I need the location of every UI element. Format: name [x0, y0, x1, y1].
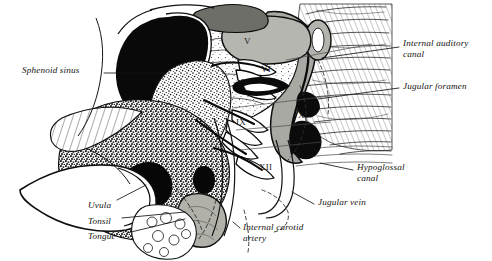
oropharynx-airway-small — [193, 166, 215, 194]
label-tongue: Tongue — [88, 231, 116, 242]
label-jugular-vein: Jugular vein — [318, 197, 366, 208]
label-internal-carotid-artery: Internal carotid artery — [243, 222, 304, 243]
marker-nerve-v: V — [244, 36, 251, 46]
tongue-muscle — [132, 205, 197, 259]
label-sphenoid-sinus: Sphenoid sinus — [22, 65, 79, 76]
marker-nerve-xii: XII — [259, 162, 272, 172]
label-tonsil: Tonsil — [88, 216, 111, 227]
label-uvula: Uvula — [88, 200, 111, 211]
marker-nerve-ix: IX — [236, 117, 246, 127]
marker-nerve-xi: XI — [298, 110, 308, 120]
label-internal-auditory-canal: Internal auditory canal — [403, 38, 469, 59]
anatomy-figure: Sphenoid sinus Uvula Tonsil Tongue Inter… — [0, 0, 492, 261]
label-hypoglossal-canal: Hypoglossal canal — [357, 162, 405, 183]
label-jugular-foramen: Jugular foramen — [403, 81, 467, 92]
marker-nerve-vi: VI — [261, 64, 271, 74]
